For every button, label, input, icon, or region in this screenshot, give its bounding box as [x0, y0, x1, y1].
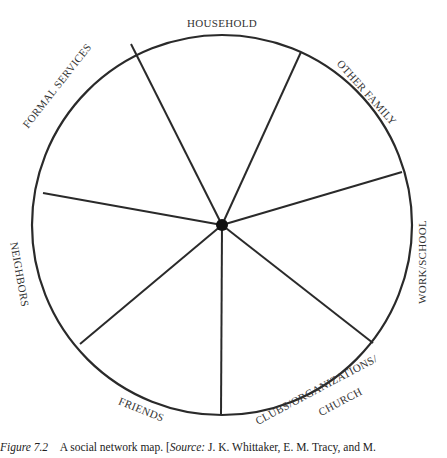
figure-number: Figure 7.2 [0, 441, 48, 453]
sector-divider-line [80, 225, 222, 344]
sector-label-household: HOUSEHOLD [187, 17, 257, 29]
caption-source-label: Source: [170, 441, 205, 453]
caption-text: A social network map. [ [60, 441, 170, 453]
sector-label-neighbors: NEIGHBORS [8, 241, 31, 308]
caption-source-text: J. K. Whittaker, E. M. Tracy, and M. [205, 441, 376, 453]
sector-divider-line [221, 225, 222, 415]
sector-divider-line [131, 44, 222, 225]
sector-label-other-family: OTHER FAMILY [335, 57, 400, 127]
center-hub [216, 219, 228, 231]
sector-label-friends: FRIENDS [117, 395, 166, 424]
sector-divider-line [222, 52, 301, 225]
sector-divider-line [222, 225, 373, 343]
sector-label-formal-services: FORMAL SERVICES [20, 41, 93, 130]
sector-divider-line [43, 193, 222, 225]
sector-label-work-school: WORK/SCHOOL [416, 220, 428, 304]
sector-label-clubs-organizations: CLUBS/ORGANIZATIONS/ [253, 352, 379, 427]
social-network-map: HOUSEHOLD OTHER FAMILY WORK/SCHOOL CLUBS… [0, 0, 447, 458]
sector-divider-line [222, 172, 402, 225]
figure-caption: Figure 7.2 A social network map. [Source… [0, 441, 447, 453]
